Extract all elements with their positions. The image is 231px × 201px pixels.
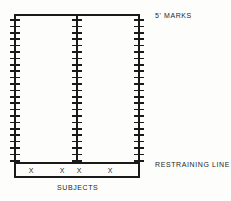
diagram-canvas: 5' MARKS RESTRAINING LINE SUBJECTS XXXX: [0, 0, 231, 201]
subject-marker-subject-4: X: [108, 167, 113, 174]
subject-marker-subject-3: X: [77, 167, 82, 174]
five-foot-marks-label: 5' MARKS: [155, 12, 192, 19]
restraining-line-label: RESTRAINING LINE: [155, 161, 230, 168]
subject-marker-subject-1: X: [29, 167, 34, 174]
subject-marker-subject-2: X: [60, 167, 65, 174]
course-layout-drawing: [0, 0, 231, 201]
subjects-label: SUBJECTS: [57, 184, 98, 191]
